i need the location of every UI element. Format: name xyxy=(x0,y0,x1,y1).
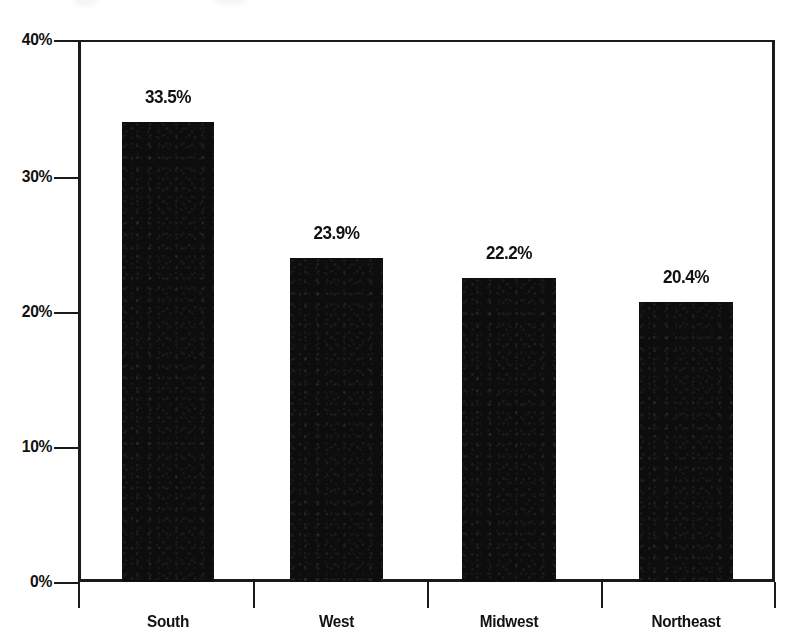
x-axis-label-northeast: Northeast xyxy=(644,612,729,632)
y-axis-tick-40 xyxy=(54,40,80,42)
y-axis-label-30: 30% xyxy=(4,167,52,187)
bar-midwest[interactable] xyxy=(462,278,556,582)
x-axis-tick-3 xyxy=(601,582,603,608)
x-axis-tick-2 xyxy=(427,582,429,608)
scan-artifact xyxy=(214,0,248,5)
y-axis-label-10: 10% xyxy=(4,437,52,457)
bar-value-south: 33.5% xyxy=(127,86,210,108)
scan-artifact xyxy=(72,0,98,6)
bar-west[interactable] xyxy=(290,258,383,582)
y-axis-label-20: 20% xyxy=(4,302,52,322)
y-axis-tick-10 xyxy=(54,447,80,449)
bar-value-west: 23.9% xyxy=(295,222,379,244)
bar-value-midwest: 22.2% xyxy=(467,242,552,264)
x-axis-label-midwest: Midwest xyxy=(467,612,552,632)
y-axis-tick-0 xyxy=(54,582,80,584)
y-axis-tick-30 xyxy=(54,177,80,179)
y-axis-label-0: 0% xyxy=(4,572,52,592)
y-axis-tick-20 xyxy=(54,312,80,314)
x-axis-label-south: South xyxy=(127,612,210,632)
x-axis-tick-0 xyxy=(78,582,80,608)
x-axis-tick-1 xyxy=(253,582,255,608)
bar-south[interactable] xyxy=(122,122,214,582)
bar-northeast[interactable] xyxy=(639,302,733,582)
y-axis-label-40: 40% xyxy=(4,30,52,50)
bar-chart: 40% 30% 20% 10% 0% 33.5% 23.9% 22.2% 20.… xyxy=(0,0,797,644)
x-axis-tick-4 xyxy=(774,582,776,608)
bar-value-northeast: 20.4% xyxy=(644,266,729,288)
x-axis-label-west: West xyxy=(295,612,379,632)
